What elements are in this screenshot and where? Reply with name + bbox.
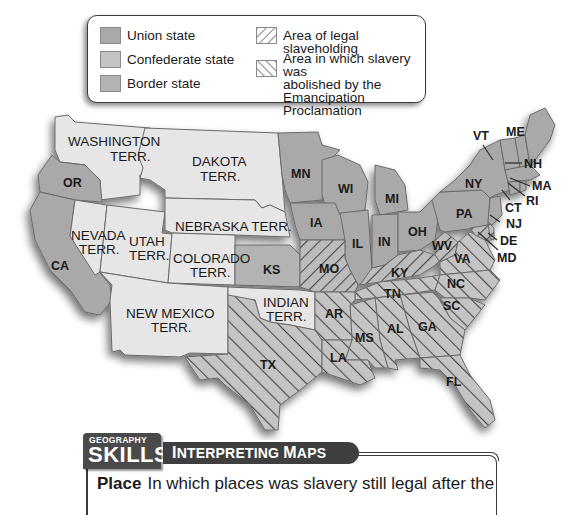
label-texas: TX bbox=[260, 358, 277, 372]
label-new-jersey: NJ bbox=[506, 217, 522, 231]
label-maryland: MD bbox=[497, 251, 516, 265]
label-dakota-terr-2: TERR. bbox=[200, 169, 241, 184]
label-connecticut: CT bbox=[505, 201, 522, 215]
label-indian-terr: INDIAN bbox=[263, 295, 309, 310]
label-illinois: IL bbox=[352, 237, 363, 251]
question-body: In which places was slavery still legal … bbox=[147, 474, 494, 493]
legend-label: Confederate state bbox=[127, 51, 234, 66]
geography-skills-badge: GEOGRAPHY SKILLS bbox=[83, 433, 161, 469]
label-washington-terr: WASHINGTON bbox=[68, 134, 160, 149]
label-tennessee: TN bbox=[384, 287, 401, 301]
region-new-jersey bbox=[488, 196, 502, 225]
label-nevada-terr: NEVADA bbox=[71, 228, 126, 243]
label-california: CA bbox=[51, 259, 69, 273]
banner-text-2: APS bbox=[297, 445, 326, 461]
label-georgia: GA bbox=[418, 320, 437, 334]
label-arkansas: AR bbox=[325, 307, 343, 321]
label-delaware: DE bbox=[500, 234, 517, 248]
label-minnesota: MN bbox=[291, 167, 310, 181]
legend-item-union: Union state bbox=[100, 27, 195, 44]
us-map: WASHINGTON TERR. DAKOTA TERR. OR NEBRASK… bbox=[0, 100, 572, 440]
label-colorado-terr-2: TERR. bbox=[190, 265, 231, 280]
label-new-york: NY bbox=[465, 177, 483, 191]
label-west-virginia: WV bbox=[432, 239, 453, 253]
region-florida bbox=[420, 355, 495, 428]
label-iowa: IA bbox=[310, 216, 323, 230]
label-new-mexico-terr: NEW MEXICO bbox=[126, 306, 215, 321]
label-mississippi: MS bbox=[355, 331, 374, 345]
label-utah-terr: UTAH bbox=[129, 234, 165, 249]
legend-label: Border state bbox=[127, 75, 201, 90]
label-indian-terr-2: TERR. bbox=[266, 309, 307, 324]
label-missouri: MO bbox=[319, 262, 339, 276]
label-nevada-terr-2: TERR. bbox=[79, 242, 120, 257]
map-legend: Union state Confederate state Border sta… bbox=[87, 15, 426, 103]
badge-bottom-text: SKILLS bbox=[88, 443, 169, 467]
interpreting-maps-banner: INTERPRETING MAPS bbox=[163, 442, 359, 464]
label-indiana: IN bbox=[378, 235, 391, 249]
question-text: PlaceIn which places was slavery still l… bbox=[97, 474, 494, 494]
confederate-swatch bbox=[100, 51, 121, 68]
label-louisiana: LA bbox=[330, 351, 347, 365]
label-florida: FL bbox=[446, 375, 462, 389]
label-north-carolina: NC bbox=[447, 277, 465, 291]
border-swatch bbox=[100, 75, 121, 92]
question-label: Place bbox=[97, 474, 141, 493]
legend-label: Union state bbox=[127, 27, 195, 42]
label-colorado-terr: COLORADO bbox=[173, 251, 250, 266]
banner-initial-2: M bbox=[283, 444, 297, 461]
label-kentucky: KY bbox=[391, 266, 409, 280]
label-virginia: VA bbox=[454, 252, 470, 266]
label-dakota-terr: DAKOTA bbox=[192, 154, 247, 169]
label-kansas: KS bbox=[263, 263, 280, 277]
label-wisconsin: WI bbox=[338, 182, 353, 196]
hatch-back-swatch bbox=[256, 60, 277, 77]
label-new-mexico-terr-2: TERR. bbox=[151, 320, 192, 335]
label-nebraska-terr: NEBRASKA TERR. bbox=[175, 219, 292, 234]
region-michigan bbox=[375, 165, 408, 215]
union-swatch bbox=[100, 27, 121, 44]
label-pennsylvania: PA bbox=[456, 207, 472, 221]
label-massachusetts: MA bbox=[532, 179, 551, 193]
label-utah-terr-2: TERR. bbox=[129, 248, 170, 263]
label-rhode-island: RI bbox=[526, 194, 539, 208]
banner-text: NTERPRETING bbox=[177, 445, 284, 461]
label-ohio: OH bbox=[408, 225, 427, 239]
region-north-carolina bbox=[435, 270, 500, 300]
legend-item-border: Border state bbox=[100, 75, 201, 92]
legend-label-line: Area in which slavery was bbox=[283, 52, 425, 78]
legend-item-confederate: Confederate state bbox=[100, 51, 234, 68]
hatch-forward-swatch bbox=[256, 27, 277, 44]
label-new-hampshire: NH bbox=[524, 157, 542, 171]
label-south-carolina: SC bbox=[443, 299, 460, 313]
label-michigan: MI bbox=[385, 192, 399, 206]
label-maine: ME bbox=[506, 125, 525, 139]
label-washington-terr-2: TERR. bbox=[110, 149, 151, 164]
label-alabama: AL bbox=[387, 322, 404, 336]
label-vermont: VT bbox=[473, 129, 489, 143]
label-oregon: OR bbox=[63, 176, 82, 190]
